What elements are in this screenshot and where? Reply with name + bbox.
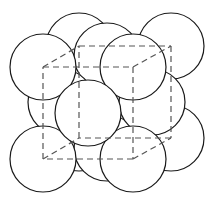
atom-spheres (10, 13, 204, 192)
sphere-front-face-center (55, 80, 121, 146)
fcc-unit-cell-diagram (0, 0, 214, 201)
